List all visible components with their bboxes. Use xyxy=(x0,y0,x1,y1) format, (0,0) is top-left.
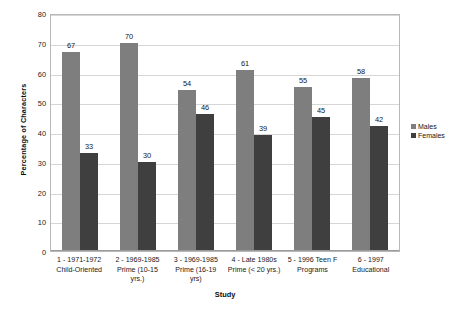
bar-slot: 39 xyxy=(254,15,272,251)
bar-slot: 55 xyxy=(294,15,312,251)
x-axis-title: Study xyxy=(50,290,400,299)
x-axis-tick: 6 - 1997Educational xyxy=(342,256,400,285)
y-axis-tick: 60 xyxy=(20,69,46,78)
bar-value-label: 61 xyxy=(241,59,249,68)
bar-males[interactable]: 67 xyxy=(62,52,80,251)
bar-slot: 70 xyxy=(120,15,138,251)
bar-slot: 58 xyxy=(352,15,370,251)
x-axis-tick: 2 - 1969-1985Prime (10-15yrs.) xyxy=(108,256,166,285)
bar-slot: 33 xyxy=(80,15,98,251)
y-axis-tick: 80 xyxy=(20,10,46,19)
legend-item-females[interactable]: Females xyxy=(411,132,463,139)
bar-value-label: 58 xyxy=(357,67,365,76)
bar-value-label: 30 xyxy=(143,151,151,160)
bar-groups: 673370305446613955455842 xyxy=(51,15,399,251)
bar-males[interactable]: 55 xyxy=(294,87,312,251)
legend-swatch-icon xyxy=(411,133,416,138)
bar-males[interactable]: 70 xyxy=(120,43,138,251)
bar-group: 6733 xyxy=(51,15,109,251)
bar-chart: Percentage of Characters 010203040506070… xyxy=(0,0,464,313)
bar-value-label: 39 xyxy=(259,124,267,133)
legend-label: Females xyxy=(418,132,445,139)
legend-swatch-icon xyxy=(411,124,416,129)
bar-slot: 54 xyxy=(178,15,196,251)
bar-value-label: 67 xyxy=(67,41,75,50)
bar-females[interactable]: 30 xyxy=(138,162,156,251)
bar-females[interactable]: 39 xyxy=(254,135,272,251)
bar-value-label: 46 xyxy=(201,103,209,112)
bar-slot: 42 xyxy=(370,15,388,251)
x-axis-tick: 3 - 1969-1985Prime (16-19yrs) xyxy=(167,256,225,285)
bar-group: 5446 xyxy=(167,15,225,251)
bar-slot: 46 xyxy=(196,15,214,251)
bar-females[interactable]: 33 xyxy=(80,153,98,251)
bar-slot: 45 xyxy=(312,15,330,251)
bar-males[interactable]: 58 xyxy=(352,78,370,251)
bar-value-label: 42 xyxy=(375,115,383,124)
x-axis-tick: 1 - 1971-1972Child-Oriented xyxy=(50,256,108,285)
bar-value-label: 45 xyxy=(317,106,325,115)
bar-males[interactable]: 54 xyxy=(178,90,196,251)
bar-group: 5545 xyxy=(283,15,341,251)
bar-group: 6139 xyxy=(225,15,283,251)
bar-group: 7030 xyxy=(109,15,167,251)
legend-label: Males xyxy=(418,123,437,130)
y-axis-tick-labels: 01020304050607080 xyxy=(20,14,46,252)
bar-slot: 67 xyxy=(62,15,80,251)
bar-value-label: 54 xyxy=(183,79,191,88)
y-axis-tick: 70 xyxy=(20,39,46,48)
y-axis-tick: 20 xyxy=(20,188,46,197)
chart-legend: MalesFemales xyxy=(411,123,463,141)
bar-males[interactable]: 61 xyxy=(236,70,254,251)
bar-females[interactable]: 45 xyxy=(312,117,330,251)
y-axis-tick: 50 xyxy=(20,99,46,108)
x-axis-tick-labels: 1 - 1971-1972Child-Oriented2 - 1969-1985… xyxy=(50,256,400,285)
bar-females[interactable]: 46 xyxy=(196,114,214,251)
y-axis-tick: 0 xyxy=(20,248,46,257)
bar-females[interactable]: 42 xyxy=(370,126,388,251)
x-axis-tick: 5 - 1996 Teen FPrograms xyxy=(283,256,341,285)
legend-item-males[interactable]: Males xyxy=(411,123,463,130)
bar-value-label: 70 xyxy=(125,32,133,41)
y-axis-tick: 10 xyxy=(20,218,46,227)
bar-slot: 30 xyxy=(138,15,156,251)
bar-slot: 61 xyxy=(236,15,254,251)
x-axis-tick: 4 - Late 1980sPrime (< 20 yrs.) xyxy=(225,256,283,285)
y-axis-tick: 40 xyxy=(20,129,46,138)
x-axis-baseline xyxy=(51,250,399,251)
bar-value-label: 55 xyxy=(299,76,307,85)
y-axis-tick: 30 xyxy=(20,158,46,167)
bar-value-label: 33 xyxy=(85,142,93,151)
bar-group: 5842 xyxy=(341,15,399,251)
plot-area: 673370305446613955455842 xyxy=(50,14,400,252)
